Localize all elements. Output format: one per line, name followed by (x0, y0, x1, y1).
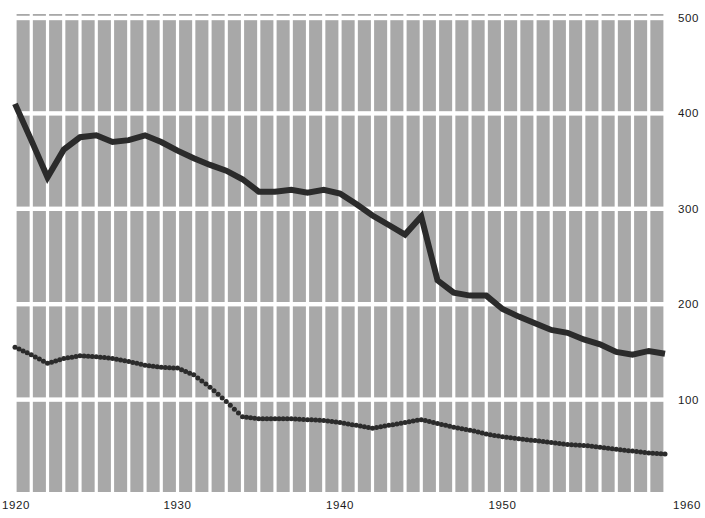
vertical-gridline (663, 14, 666, 492)
series-dot (203, 382, 208, 387)
line-chart: 100200300400500 19201930194019501960 (0, 0, 705, 518)
series-dot (199, 379, 204, 384)
vertical-gridline (62, 14, 65, 492)
y-tick-label: 400 (678, 107, 699, 119)
series-dot (195, 375, 200, 380)
vertical-gridline (143, 14, 146, 492)
chart-container: 100200300400500 19201930194019501960 (0, 0, 705, 518)
horizontal-gridline (15, 302, 665, 306)
series-dot (228, 403, 233, 408)
vertical-gridline (615, 14, 618, 492)
series-dot (663, 451, 668, 456)
y-tick-label: 500 (678, 12, 699, 24)
vertical-gridline (95, 14, 98, 492)
vertical-gridline (501, 14, 504, 492)
series-dot (220, 395, 225, 400)
x-tick-label: 1920 (2, 499, 30, 511)
x-tick-label: 1940 (326, 499, 354, 511)
vertical-gridline (241, 14, 244, 492)
vertical-gridline (176, 14, 179, 492)
vertical-gridline (46, 14, 49, 492)
series-dot (208, 385, 213, 390)
x-tick-label: 1930 (164, 499, 192, 511)
vertical-gridline (192, 14, 195, 492)
vertical-gridline (582, 14, 585, 492)
series-dot (232, 407, 237, 412)
vertical-gridline (452, 14, 455, 492)
vertical-gridline (160, 14, 163, 492)
vertical-gridline (208, 14, 211, 492)
vertical-gridline (371, 14, 374, 492)
vertical-gridline (355, 14, 358, 492)
series-dot (216, 392, 221, 397)
vertical-gridline (225, 14, 228, 492)
vertical-gridline (436, 14, 439, 492)
vertical-gridline (30, 14, 33, 492)
horizontal-gridline (15, 16, 665, 20)
vertical-gridline (647, 14, 650, 492)
vertical-gridline (517, 14, 520, 492)
series-dot (191, 372, 196, 377)
vertical-gridline (13, 14, 16, 492)
x-tick-label: 1960 (673, 499, 701, 511)
series-dot (212, 388, 217, 393)
x-tick-label: 1950 (489, 499, 517, 511)
vertical-gridline (631, 14, 634, 492)
vertical-gridline (550, 14, 553, 492)
y-tick-label: 100 (678, 394, 699, 406)
vertical-gridline (485, 14, 488, 492)
horizontal-gridline (15, 397, 665, 401)
vertical-gridline (78, 14, 81, 492)
vertical-gridline (387, 14, 390, 492)
vertical-gridline (533, 14, 536, 492)
series-dot (236, 410, 241, 415)
y-tick-label: 300 (678, 203, 699, 215)
series-dot (224, 399, 229, 404)
y-tick-label: 200 (678, 298, 699, 310)
vertical-gridline (111, 14, 114, 492)
horizontal-gridline (15, 207, 665, 211)
horizontal-gridline (15, 111, 665, 115)
vertical-gridline (127, 14, 130, 492)
vertical-gridline (566, 14, 569, 492)
vertical-gridline (598, 14, 601, 492)
vertical-gridline (468, 14, 471, 492)
